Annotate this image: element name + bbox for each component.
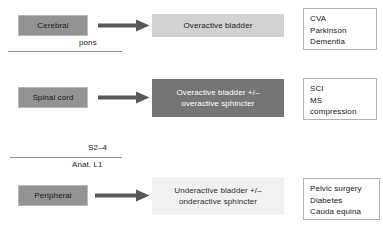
source-box-spinal-cord: Spinal cord <box>18 87 88 108</box>
etiology-item: Pelvic surgery <box>310 183 373 195</box>
arrow-right-icon-spinal-cord <box>98 91 150 104</box>
level-label-s2-4: S2–4 <box>88 143 107 152</box>
etiology-box-peripheral: Pelvic surgery Diabetes Cauda equina <box>303 178 380 220</box>
level-label-anat-l1: Anat. L1 <box>72 160 103 169</box>
etiology-item: CVA <box>310 13 370 25</box>
level-divider-s2-4 <box>10 157 122 158</box>
level-divider-pons <box>8 51 122 52</box>
etiology-box-spinal-cord: SCI MS compression <box>303 78 377 120</box>
etiology-item: SCI <box>310 83 370 95</box>
etiology-box-cerebral: CVA Parkinson Dementia <box>303 8 377 50</box>
source-box-cerebral: Cerebral <box>18 15 88 36</box>
source-box-spinal-cord-label: Spinal cord <box>32 93 73 102</box>
arrow-right-icon-cerebral <box>98 19 150 32</box>
etiology-item: Cauda equina <box>310 206 373 218</box>
outcome-box-overactive-bladder-label: Overactive bladder <box>184 20 253 31</box>
etiology-item: MS <box>310 95 370 107</box>
outcome-box-overactive-bladder-sphincter: Overactive bladder +/– overactive sphinc… <box>152 79 284 117</box>
etiology-item: Parkinson <box>310 25 370 37</box>
neurogenic-bladder-diagram: Cerebral Overactive bladder CVA Parkinso… <box>0 0 383 231</box>
outcome-line: overactive sphincter <box>181 99 254 108</box>
etiology-item: Dementia <box>310 36 370 48</box>
outcome-line: Underactive bladder +/– <box>174 186 261 195</box>
level-label-pons: pons <box>79 38 97 47</box>
arrow-right-icon-peripheral <box>95 189 150 202</box>
source-box-peripheral-label: Peripheral <box>34 191 71 200</box>
outcome-box-overactive-bladder: Overactive bladder <box>152 14 284 37</box>
etiology-item: compression <box>310 106 370 118</box>
outcome-line: Overactive bladder +/– <box>177 88 260 97</box>
source-box-cerebral-label: Cerebral <box>37 21 68 30</box>
source-box-peripheral: Peripheral <box>18 185 88 206</box>
etiology-item: Diabetes <box>310 195 373 207</box>
outcome-box-underactive-bladder-sphincter: Underactive bladder +/– onderactive sphi… <box>152 177 284 215</box>
outcome-line: onderactive sphincter <box>179 197 257 206</box>
